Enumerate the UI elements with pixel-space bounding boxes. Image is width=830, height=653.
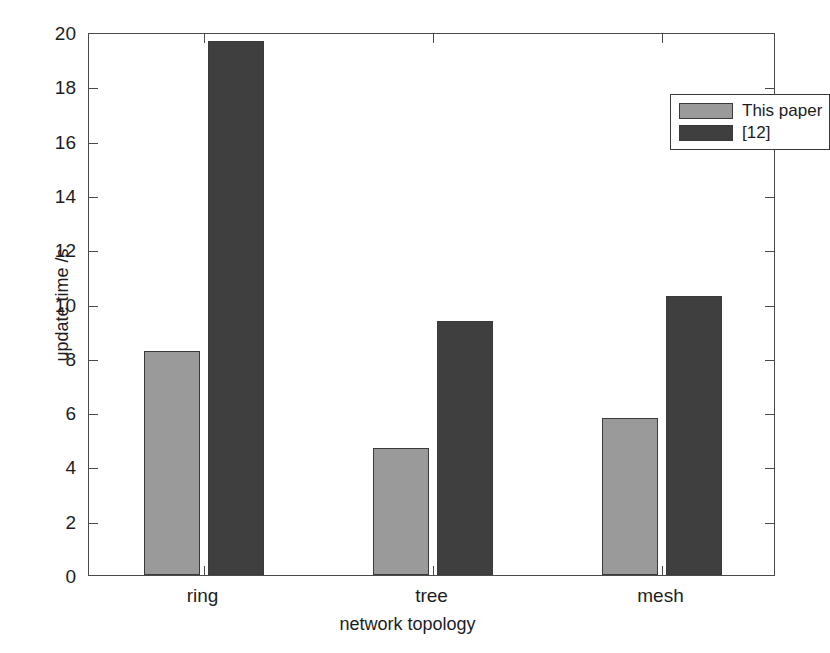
y-tick-mark bbox=[89, 251, 98, 252]
y-tick-label: 14 bbox=[30, 186, 76, 205]
y-tick-label: 4 bbox=[30, 458, 76, 477]
legend-swatch-reference-12 bbox=[679, 125, 733, 141]
x-tick-mark bbox=[662, 566, 663, 575]
plot-area: This paper [12] bbox=[88, 33, 775, 576]
bar-tree-reference-12 bbox=[437, 321, 493, 575]
bar-tree-this-paper bbox=[373, 448, 429, 575]
x-tick-mark bbox=[433, 566, 434, 575]
y-tick-label: 16 bbox=[30, 132, 76, 151]
legend-item-this-paper: This paper bbox=[679, 100, 829, 122]
x-axis-label: network topology bbox=[0, 614, 815, 635]
legend-label-this-paper: This paper bbox=[742, 101, 822, 121]
y-tick-label: 0 bbox=[30, 567, 76, 586]
bar-mesh-reference-12 bbox=[666, 296, 722, 575]
bar-mesh-this-paper bbox=[602, 418, 658, 575]
x-tick-mark bbox=[662, 34, 663, 43]
y-tick-mark bbox=[765, 523, 774, 524]
y-tick-mark bbox=[765, 468, 774, 469]
legend-label-reference-12: [12] bbox=[742, 123, 770, 143]
y-tick-label: 12 bbox=[30, 241, 76, 260]
y-tick-mark bbox=[89, 360, 98, 361]
y-tick-label: 6 bbox=[30, 404, 76, 423]
y-tick-mark bbox=[765, 197, 774, 198]
y-tick-mark bbox=[89, 143, 98, 144]
x-tick-mark bbox=[433, 34, 434, 43]
y-tick-label: 8 bbox=[30, 349, 76, 368]
chart-legend: This paper [12] bbox=[670, 94, 830, 150]
y-tick-label: 18 bbox=[30, 78, 76, 97]
x-tick-label: ring bbox=[187, 585, 219, 607]
y-tick-mark bbox=[765, 414, 774, 415]
bar-ring-this-paper bbox=[144, 351, 200, 575]
x-tick-label: tree bbox=[415, 585, 448, 607]
x-tick-label: mesh bbox=[637, 585, 683, 607]
y-tick-mark bbox=[89, 306, 98, 307]
y-tick-mark bbox=[89, 197, 98, 198]
y-tick-mark bbox=[765, 360, 774, 361]
y-tick-mark bbox=[89, 523, 98, 524]
y-tick-mark bbox=[765, 306, 774, 307]
legend-item-reference-12: [12] bbox=[679, 122, 829, 144]
y-tick-label: 20 bbox=[30, 24, 76, 43]
y-tick-mark bbox=[765, 251, 774, 252]
legend-swatch-this-paper bbox=[679, 103, 733, 119]
y-tick-mark bbox=[89, 468, 98, 469]
y-tick-label: 2 bbox=[30, 512, 76, 531]
y-tick-label: 10 bbox=[30, 295, 76, 314]
y-tick-mark bbox=[89, 414, 98, 415]
bar-ring-reference-12 bbox=[208, 41, 264, 575]
x-tick-mark bbox=[204, 566, 205, 575]
y-tick-mark bbox=[765, 88, 774, 89]
y-tick-mark bbox=[89, 88, 98, 89]
x-tick-mark bbox=[204, 34, 205, 43]
